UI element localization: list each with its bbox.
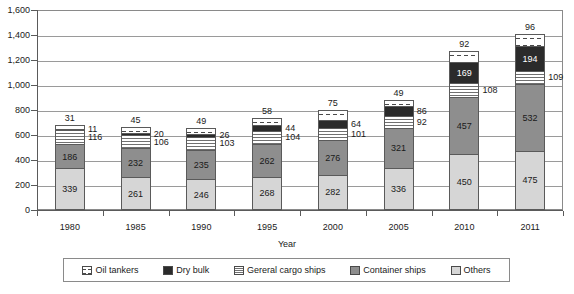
y-axis-tick-label: 1,600 (0, 6, 30, 15)
legend-item-label: Others (464, 265, 491, 275)
bar-stack: 186339 (55, 125, 85, 210)
bar-group: 262268 (252, 10, 282, 210)
segment-value-label: 339 (56, 184, 84, 194)
bar-segment (56, 130, 84, 145)
bar-group: 276282 (318, 10, 348, 210)
bar-group: 186339 (55, 10, 85, 210)
others-swatch-icon (451, 266, 461, 275)
bar-segment (516, 34, 544, 46)
legend-item[interactable]: Others (451, 265, 491, 275)
gridline (38, 36, 562, 37)
y-axis-line (37, 10, 38, 211)
legend-item-label: Gereral cargo ships (247, 265, 326, 275)
chart-legend: Oil tankersDry bulkGereral cargo shipsCo… (63, 258, 510, 282)
y-axis-tick-mark (31, 10, 37, 11)
bar-segment (253, 131, 281, 144)
legend-item-label: Dry bulk (176, 265, 209, 275)
dry-bulk-swatch-icon (163, 266, 173, 275)
bar-segment (516, 71, 544, 85)
segment-value-label: 261 (122, 189, 150, 199)
y-axis-tick-label: 800 (0, 106, 30, 115)
segment-value-label: 450 (450, 177, 478, 187)
segment-value-label: 532 (516, 113, 544, 123)
segment-value-label: 282 (319, 187, 347, 197)
segment-callout-label: 86 (417, 106, 427, 116)
stacked-bar-chart: 02004006008001,0001,2001,4001,600 198019… (0, 0, 574, 294)
oil-tankers-swatch-icon (82, 266, 92, 275)
bar-segment: 532 (516, 84, 544, 151)
bar-segment: 246 (187, 179, 215, 210)
bar-stack: 276282 (318, 110, 348, 210)
bar-segment: 232 (122, 148, 150, 177)
y-axis-tick-mark (31, 160, 37, 161)
bar-group: 321336 (384, 10, 414, 210)
legend-item[interactable]: Dry bulk (163, 265, 209, 275)
x-axis-tick-mark (37, 211, 38, 216)
segment-callout-label: 109 (548, 72, 563, 82)
segment-callout-label: 104 (285, 132, 300, 142)
y-axis-tick-mark (31, 60, 37, 61)
gridline (38, 186, 562, 187)
bar-stack: 321336 (384, 100, 414, 211)
legend-item[interactable]: Container ships (350, 265, 426, 275)
bar-segment (319, 128, 347, 141)
y-axis-tick-mark (31, 110, 37, 111)
segment-callout-label: 106 (154, 137, 169, 147)
segment-value-label: 232 (122, 158, 150, 168)
x-axis-tick-label: 2011 (500, 222, 560, 232)
segment-value-label: 457 (450, 121, 478, 131)
segment-callout-label: 116 (88, 132, 102, 142)
x-axis-tick-mark (103, 211, 104, 216)
bar-group: 235246 (186, 10, 216, 210)
x-axis-tick-label: 1985 (106, 222, 166, 232)
legend-item[interactable]: Gereral cargo ships (234, 265, 326, 275)
segment-callout-label: 108 (482, 85, 497, 95)
x-axis-tick-mark (366, 211, 367, 216)
y-axis-tick-label: 200 (0, 181, 30, 190)
x-axis-tick-label: 1995 (237, 222, 297, 232)
x-axis-tick-label: 1980 (40, 222, 100, 232)
segment-value-label: 336 (385, 184, 413, 194)
bar-segment (253, 118, 281, 125)
segment-value-label: 235 (187, 160, 215, 170)
x-axis-tick-mark (234, 211, 235, 216)
y-axis-tick-label: 1,400 (0, 31, 30, 40)
bar-segment: 336 (385, 168, 413, 210)
x-axis-tick-mark (497, 211, 498, 216)
y-axis-tick-label: 1,000 (0, 81, 30, 90)
segment-value-label: 186 (56, 152, 84, 162)
legend-item-label: Oil tankers (95, 265, 138, 275)
bar-segment (319, 120, 347, 128)
segment-value-label: 262 (253, 156, 281, 166)
bar-segment: 457 (450, 97, 478, 154)
segment-value-label: 246 (187, 190, 215, 200)
x-axis-tick-mark (169, 211, 170, 216)
x-axis-tick-mark (563, 211, 564, 216)
bar-segment: 186 (56, 144, 84, 167)
bar-segment: 276 (319, 140, 347, 175)
bar-segment: 262 (253, 144, 281, 177)
segment-value-label: 321 (385, 143, 413, 153)
segment-value-label: 475 (516, 175, 544, 185)
segment-value-label: 194 (516, 54, 544, 64)
segment-callout-label: 92 (417, 117, 427, 127)
container-ships-swatch-icon (350, 266, 360, 275)
gridline (38, 161, 562, 162)
general-cargo-swatch-icon (234, 266, 244, 275)
bar-segment (122, 135, 150, 148)
bar-segment: 268 (253, 177, 281, 211)
bar-stack: 194532475 (515, 34, 545, 210)
legend-item[interactable]: Oil tankers (82, 265, 138, 275)
bar-stack: 235246 (186, 128, 216, 210)
bar-segment: 261 (122, 177, 150, 210)
bar-segment (450, 83, 478, 97)
gridline (38, 61, 562, 62)
segment-callout-label: 103 (219, 138, 234, 148)
bar-segment: 194 (516, 46, 544, 70)
x-axis-tick-label: 2000 (303, 222, 363, 232)
segment-value-label: 169 (450, 68, 478, 78)
y-axis-tick-label: 400 (0, 156, 30, 165)
y-axis-tick-mark (31, 135, 37, 136)
y-axis-tick-mark (31, 35, 37, 36)
legend-item-label: Container ships (363, 265, 426, 275)
